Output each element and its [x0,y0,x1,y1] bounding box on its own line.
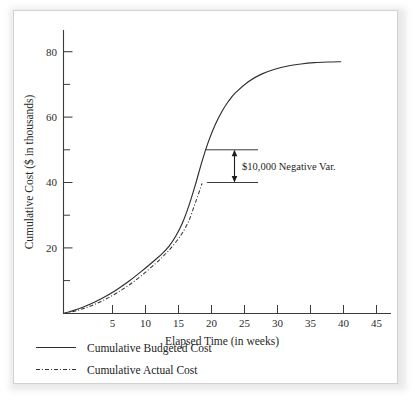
x-tick-label-20: 20 [206,317,218,329]
y-tick-label-60: 60 [46,111,58,123]
x-tick-label-10: 10 [140,317,152,329]
y-axis-tick-labels: 80 60 40 20 [46,46,58,254]
chart-figure: 80 60 40 20 Cumulative Cost ($ in thousa… [0,0,415,403]
annotation-arrowhead-up [232,150,238,156]
chart-canvas: 80 60 40 20 Cumulative Cost ($ in thousa… [0,0,415,403]
chart-legend: Cumulative Budgeted Cost Cumulative Actu… [36,342,212,376]
x-tick-label-45: 45 [371,317,383,329]
series-line-cumulative-actual-cost [64,183,203,313]
y-tick-label-80: 80 [46,46,58,58]
legend-label-cumulative-actual-cost: Cumulative Actual Cost [87,364,198,376]
axes-group [64,30,392,314]
x-tick-label-35: 35 [305,317,317,329]
x-tick-label-5: 5 [110,317,116,329]
variance-annotation: $10,000 Negative Var. [205,150,336,183]
annotation-label-negative-variance: $10,000 Negative Var. [242,161,336,172]
annotation-arrowhead-down [232,176,238,182]
x-tick-label-40: 40 [338,317,350,329]
y-axis-title: Cumulative Cost ($ in thousands) [23,95,36,250]
x-tick-label-30: 30 [272,317,284,329]
y-tick-label-20: 20 [46,242,58,254]
y-axis-ticks [64,52,73,281]
legend-label-cumulative-budgeted-cost: Cumulative Budgeted Cost [87,342,212,355]
series-line-cumulative-budgeted-cost [64,62,341,314]
x-axis-tick-labels: 5 10 15 20 25 30 35 40 45 [110,317,383,329]
x-tick-label-15: 15 [173,317,185,329]
y-tick-label-40: 40 [46,176,58,188]
x-tick-label-25: 25 [239,317,251,329]
x-axis-ticks [113,305,377,314]
